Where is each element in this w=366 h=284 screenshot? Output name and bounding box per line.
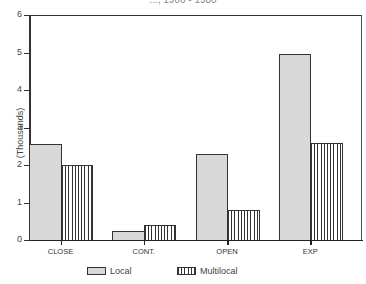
y-tick-label: 5 — [12, 47, 22, 57]
chart-title: ..., 1966 - 1980 — [0, 0, 366, 5]
x-tick-label: EXP — [280, 247, 340, 256]
legend-swatch-local — [87, 267, 106, 275]
y-tick — [24, 15, 30, 16]
x-tick — [61, 240, 63, 245]
bar-exp-local — [279, 54, 312, 240]
y-tick — [24, 90, 30, 91]
x-tick — [144, 240, 146, 245]
legend-swatch-multilocal — [177, 267, 196, 275]
y-tick-label: 1 — [12, 197, 22, 207]
y-tick-label: 4 — [12, 84, 22, 94]
x-tick-label: CLOSE — [31, 247, 91, 256]
bar-close-multilocal — [61, 165, 94, 240]
y-tick-label: 6 — [12, 9, 22, 19]
bar-open-multilocal — [227, 210, 260, 240]
x-tick-label: CONT. — [114, 247, 174, 256]
legend-label-local: Local — [110, 266, 132, 276]
y-tick-label: 0 — [12, 234, 22, 244]
bar-exp-multilocal — [310, 143, 343, 241]
bar-close-local — [29, 144, 62, 240]
bar-cont-multilocal — [144, 225, 177, 240]
bar-cont-local — [112, 231, 145, 240]
x-tick — [227, 240, 229, 245]
bar-open-local — [196, 154, 229, 240]
x-tick-label: OPEN — [197, 247, 257, 256]
y-tick — [24, 240, 30, 241]
x-tick — [310, 240, 312, 245]
y-tick — [24, 53, 30, 54]
y-axis-title: (Thousands) — [15, 103, 25, 163]
legend-label-multilocal: Multilocal — [200, 266, 238, 276]
